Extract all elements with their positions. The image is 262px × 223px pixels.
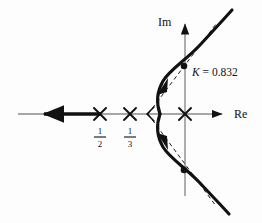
pole-label-one-third-numerator: 1 bbox=[128, 126, 133, 136]
pole-label-one-half-numerator: 1 bbox=[98, 126, 103, 136]
pole-label-one-half-denominator: 2 bbox=[98, 139, 103, 149]
root-locus-canvas: Re Im bbox=[0, 0, 262, 223]
real-axis-label: Re bbox=[234, 107, 247, 121]
gain-point-upper bbox=[181, 63, 188, 70]
root-locus-figure: Re Im bbox=[0, 0, 262, 223]
gain-annotation: K = 0.832 bbox=[191, 66, 238, 78]
gain-point-lower bbox=[181, 167, 188, 174]
pole-label-one-third-denominator: 3 bbox=[128, 139, 133, 149]
gain-equals-and-value: = 0.832 bbox=[200, 66, 238, 78]
imaginary-axis-label: Im bbox=[158, 15, 172, 29]
pole-label-one-third: 1 3 bbox=[124, 126, 136, 149]
pole-label-one-half: 1 2 bbox=[94, 126, 106, 149]
locus-branch-lower bbox=[158, 114, 229, 214]
complex-locus-branches bbox=[158, 10, 232, 214]
